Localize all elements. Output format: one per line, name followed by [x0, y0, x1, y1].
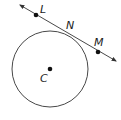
label-n: N — [66, 19, 74, 32]
point-l-dot — [34, 13, 39, 18]
center-c-dot — [48, 67, 53, 72]
label-c: C — [40, 72, 48, 85]
point-m-dot — [96, 50, 101, 55]
circle-tangent-diagram: L N M C — [0, 0, 121, 120]
label-m: M — [94, 36, 104, 49]
label-l: L — [40, 3, 46, 16]
